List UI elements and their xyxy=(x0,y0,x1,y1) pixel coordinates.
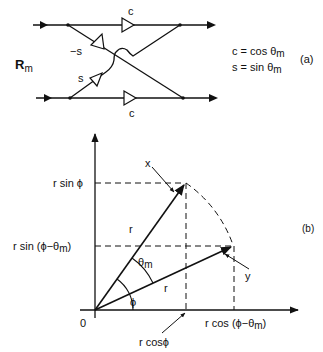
y-tick-upper-label: r sin ϕ xyxy=(53,177,83,189)
r-cos-phi-pointer xyxy=(162,313,185,333)
y-tick-lower-label: r sin (ϕ−θm) xyxy=(13,240,71,254)
x-pointer xyxy=(152,167,174,192)
bottom-gain-triangle-icon xyxy=(124,91,136,105)
neg-gain-label: −s xyxy=(70,45,82,57)
angle-theta-label: θm xyxy=(138,256,152,270)
panel-b-tag: (b) xyxy=(302,223,314,234)
x-tick-left-label: r cosϕ xyxy=(139,336,169,348)
vector-y xyxy=(95,247,231,310)
top-output-arrow-icon xyxy=(207,21,216,29)
vector-rotation-diagram: x y r r ϕ θm 0 r sin ϕ r sin (ϕ−θm) r co… xyxy=(13,134,314,348)
panel-a-tag: (a) xyxy=(300,53,313,65)
vector-y-label: y xyxy=(245,270,251,282)
bottom-output-arrow-icon xyxy=(209,94,218,102)
x-tick-right-label: r cos (ϕ−θm) xyxy=(205,317,266,331)
definition-c: c = cos θm xyxy=(232,45,285,59)
rotation-figure: c c −s s Rm c = cos θm s = sin θm (a) xyxy=(0,0,323,352)
y-pointer xyxy=(225,254,249,269)
radius-label-y: r xyxy=(164,282,168,294)
vector-x xyxy=(95,185,184,310)
vector-x-label: x xyxy=(145,157,151,169)
radius-label-x: r xyxy=(129,223,133,235)
top-gain-triangle-icon xyxy=(122,18,134,32)
signal-flow-graph: c c −s s Rm c = cos θm s = sin θm (a) xyxy=(15,5,313,119)
bottom-input-arrow-icon xyxy=(44,94,52,102)
pos-gain-triangle-icon xyxy=(90,73,102,86)
operator-label: Rm xyxy=(15,57,33,74)
definition-s: s = sin θm xyxy=(232,61,282,75)
pos-gain-label: s xyxy=(78,72,84,84)
rotation-arc xyxy=(186,183,233,245)
top-input-arrow-icon xyxy=(40,21,48,29)
top-gain-label: c xyxy=(128,5,134,17)
origin-label: 0 xyxy=(80,317,86,329)
bottom-gain-label: c xyxy=(129,107,135,119)
angle-phi-label: ϕ xyxy=(130,296,136,308)
